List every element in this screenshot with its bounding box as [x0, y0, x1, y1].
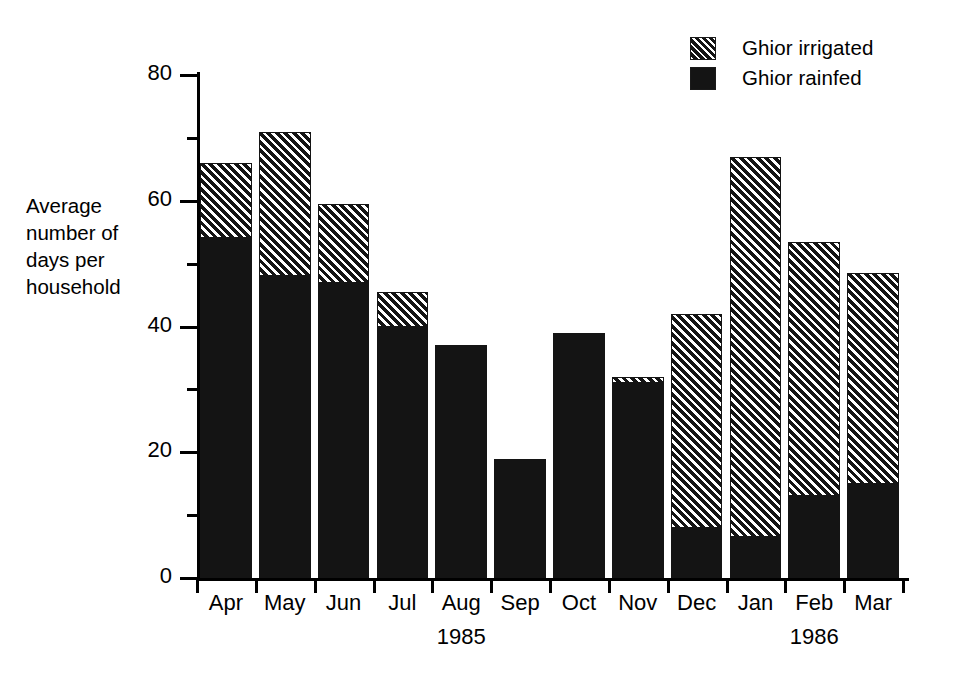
bar-jun [318, 204, 370, 578]
bar-segment-irrigated [612, 377, 664, 383]
bar-segment-irrigated [377, 292, 429, 327]
bar-mar [847, 273, 899, 578]
bar-segment-irrigated [200, 163, 252, 238]
bar-aug [435, 345, 487, 578]
bar-segment-rainfed [553, 333, 605, 578]
bar-segment-rainfed [377, 327, 429, 579]
bar-sep [494, 459, 546, 578]
bar-segment-irrigated [730, 157, 782, 537]
bar-segment-rainfed [788, 496, 840, 578]
bar-segment-rainfed [200, 238, 252, 578]
bar-segment-rainfed [847, 484, 899, 578]
bar-segment-rainfed [730, 537, 782, 578]
bar-segment-irrigated [847, 273, 899, 484]
bar-segment-rainfed [494, 459, 546, 578]
bar-jan [730, 157, 782, 578]
bar-chart: Ghior irrigated Ghior rainfed Average nu… [0, 0, 956, 690]
bar-segment-rainfed [671, 528, 723, 578]
x-axis-label-mar: Mar [838, 590, 908, 616]
bar-oct [553, 333, 605, 578]
bar-nov [612, 377, 664, 578]
bar-segment-irrigated [318, 204, 370, 283]
bar-apr [200, 163, 252, 578]
bar-feb [788, 242, 840, 578]
bar-dec [671, 314, 723, 578]
bar-segment-irrigated [671, 314, 723, 528]
bar-jul [377, 292, 429, 578]
bar-segment-rainfed [612, 383, 664, 578]
bar-segment-rainfed [318, 283, 370, 579]
bar-segment-rainfed [435, 345, 487, 578]
bar-segment-irrigated [788, 242, 840, 497]
bars-layer [0, 0, 956, 690]
bar-segment-irrigated [259, 132, 311, 277]
bar-may [259, 132, 311, 578]
x-axis-year-1985: 1985 [416, 624, 506, 650]
bar-segment-rainfed [259, 276, 311, 578]
x-axis-year-1986: 1986 [769, 624, 859, 650]
